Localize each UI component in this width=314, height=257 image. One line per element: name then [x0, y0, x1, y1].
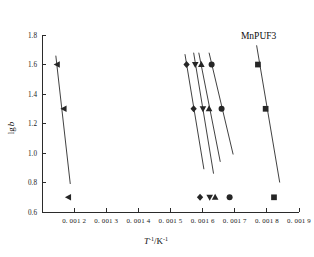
data-point-circle	[209, 62, 215, 68]
series-annotation-label: MnPUF3	[241, 31, 277, 41]
y-tick-label: 1.8	[28, 32, 37, 40]
x-tick-label: 0. 001 2	[62, 217, 86, 224]
y-tick-label: 1.0	[28, 150, 37, 158]
x-tick-label: 0. 001 6	[191, 217, 215, 224]
data-point-square	[255, 62, 261, 68]
y-tick-label: 1.2	[28, 120, 37, 128]
chart-figure: 0.60.81.01.21.41.61.8 0. 001 20. 001 30.…	[0, 0, 314, 257]
y-tick-label: 1.4	[28, 91, 37, 99]
x-axis-title-exp2: -1	[163, 236, 168, 242]
x-tick-label: 0. 001 3	[94, 217, 118, 224]
y-tick-label: 0.8	[28, 179, 37, 187]
legend-marker-square	[271, 194, 277, 200]
y-axis-title: lgb	[6, 121, 16, 134]
svg-text:lgb: lgb	[6, 121, 16, 134]
x-tick-label: 0. 001 8	[255, 217, 279, 224]
x-tick-label: 0. 001 7	[223, 217, 247, 224]
x-tick-label: 0. 001 9	[287, 217, 311, 224]
arrhenius-plot: 0.60.81.01.21.41.61.8 0. 001 20. 001 30.…	[0, 0, 314, 257]
y-axis-title-italic: b	[6, 121, 16, 126]
y-tick-label: 1.6	[28, 61, 37, 69]
x-tick-label: 0. 001 5	[159, 217, 183, 224]
data-point-circle	[219, 106, 225, 112]
legend-marker-circle	[227, 194, 233, 200]
y-tick-label: 0.6	[28, 209, 37, 217]
x-tick-label: 0. 001 4	[126, 217, 150, 224]
data-point-square	[263, 106, 269, 112]
y-axis-title-prefix: lg	[6, 127, 16, 135]
